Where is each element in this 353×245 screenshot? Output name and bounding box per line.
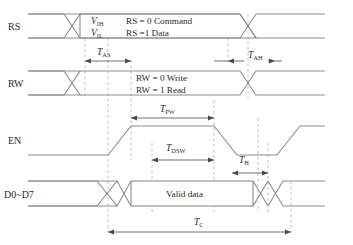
rw-text-line-1: RW = 0 Write: [136, 73, 187, 83]
timing-dimension-t-h: TH: [232, 155, 268, 175]
t-pw-subscript: PW: [165, 108, 176, 115]
t-h-subscript: H: [244, 159, 249, 166]
svg-text:TPW: TPW: [160, 104, 176, 115]
timing-diagram-figure: RS VIH VIL RS = 0 Command RS =1 Data TAS…: [0, 0, 353, 245]
timing-dimension-t-c: TC: [108, 217, 291, 234]
rs-text-line-1: RS = 0 Command: [126, 16, 193, 26]
rs-vil-subscript: IL: [97, 32, 103, 39]
svg-text:TH: TH: [239, 155, 249, 166]
svg-text:TC: TC: [194, 217, 204, 228]
rs-annotation-group: VIH VIL RS = 0 Command RS =1 Data: [91, 16, 193, 39]
svg-text:VIL: VIL: [91, 28, 103, 39]
signal-label-rs: RS: [8, 21, 20, 32]
t-as-subscript: AS: [102, 51, 111, 58]
svg-text:VIH: VIH: [91, 16, 104, 27]
t-dsw-subscript: DSW: [171, 147, 186, 154]
rs-text-line-2: RS =1 Data: [126, 28, 169, 38]
timing-diagram-canvas: RS VIH VIL RS = 0 Command RS =1 Data TAS…: [0, 0, 353, 245]
rw-text-line-2: RW = 1 Read: [136, 85, 186, 95]
rs-vih-subscript: IH: [97, 20, 104, 27]
signal-label-rw: RW: [8, 78, 24, 89]
t-ah-subscript: AH: [253, 54, 263, 61]
timing-dimension-t-dsw: TDSW: [152, 143, 214, 162]
t-c-subscript: C: [199, 221, 203, 228]
rw-annotation-group: RW = 0 Write RW = 1 Read: [136, 73, 187, 95]
svg-text:TAH: TAH: [248, 50, 263, 61]
svg-text:TDSW: TDSW: [166, 143, 186, 154]
signal-label-data: D0~D7: [4, 189, 34, 200]
timing-dimension-t-ah: TAH: [214, 50, 282, 63]
signal-label-en: EN: [8, 135, 21, 146]
svg-text:TAS: TAS: [97, 47, 111, 58]
valid-data-label: Valid data: [166, 189, 203, 199]
timing-dimension-t-pw: TPW: [131, 104, 214, 120]
